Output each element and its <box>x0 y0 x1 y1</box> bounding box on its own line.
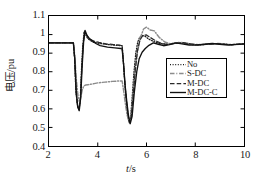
legend-item-label: M-DC-C <box>187 88 217 97</box>
x-tick-label: 8 <box>184 149 208 160</box>
x-tick-label: 6 <box>135 149 159 160</box>
y-tick-label: 1 <box>2 28 45 38</box>
legend-line-sample-icon <box>169 88 187 97</box>
y-tick-label: 1.1 <box>2 10 45 20</box>
y-tick-label: 0.5 <box>2 123 45 133</box>
legend-line-sample-icon <box>169 69 187 78</box>
x-tick-label: 2 <box>36 149 60 160</box>
legend-box: NoS-DCM-DCM-DC-C <box>166 58 227 98</box>
y-axis-label: 电压/pu <box>2 50 17 102</box>
x-axis-label-unit: /s <box>129 163 136 174</box>
figure-voltage-vs-time: 0.40.50.60.70.80.911.1 电压/pu 246810 t/s … <box>0 0 262 184</box>
y-tick-label: 0.6 <box>2 104 45 114</box>
legend-line-sample-icon <box>169 60 187 69</box>
legend-line-sample-icon <box>169 79 187 88</box>
x-tick-label: 4 <box>85 149 109 160</box>
x-axis-label: t/s <box>0 163 262 174</box>
x-tick-label: 10 <box>233 149 257 160</box>
legend-item-m-dc-c[interactable]: M-DC-C <box>167 88 226 97</box>
